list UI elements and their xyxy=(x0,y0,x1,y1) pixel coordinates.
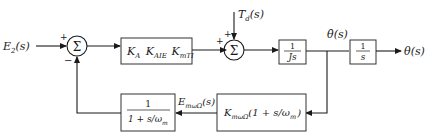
summing-junction-1: Σ + − xyxy=(60,32,87,66)
svg-text:Σ: Σ xyxy=(73,40,81,54)
svg-text:1: 1 xyxy=(360,42,365,51)
feedback-return-arrow xyxy=(77,57,121,113)
feedback-branch xyxy=(306,51,327,113)
disturbance-label: Td(s) xyxy=(238,8,264,23)
sum1-minus-sign: − xyxy=(64,55,72,66)
filter-block: 1 1 + s/ωm xyxy=(121,94,175,131)
svg-text:1: 1 xyxy=(290,42,295,51)
svg-text:s: s xyxy=(361,52,366,62)
svg-text:Σ: Σ xyxy=(230,44,238,58)
block-diagram: E2(s) Σ + − KA KAIE KmTI Td(s) Σ + + 1 J… xyxy=(0,0,435,138)
summing-junction-2: Σ + + xyxy=(216,29,244,60)
output-label: θ(s) xyxy=(404,45,425,58)
svg-text:1: 1 xyxy=(145,99,151,109)
rate-label: θ̇(s) xyxy=(327,28,348,41)
input-label: E2(s) xyxy=(2,40,30,55)
forward-gain-block: KA KAIE KmTI xyxy=(121,38,194,64)
svg-text:Js: Js xyxy=(286,52,297,62)
inertia-block: 1 Js xyxy=(279,40,306,64)
sum2-plus-sign-top: + xyxy=(224,29,232,39)
tachometer-block: KmωΩ(1 + s/ωm) xyxy=(217,94,306,131)
feedback-voltage-label: EmωΩ(s) xyxy=(177,96,215,110)
integrator-block: 1 s xyxy=(350,40,376,64)
sum2-plus-sign-left: + xyxy=(216,36,224,46)
sum1-plus-sign: + xyxy=(60,32,68,42)
